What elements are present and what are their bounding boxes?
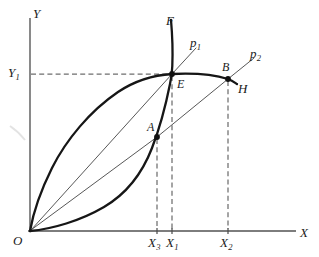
point-b-marker [225, 76, 231, 82]
line-p2-label-base: p [250, 46, 257, 61]
x-tick-label-x3-sub: 3 [156, 242, 160, 252]
x-tick-label-x3-base: X [148, 235, 156, 250]
y-axis-label: Y [33, 7, 40, 20]
ray-p2-OAB [31, 58, 254, 230]
rays-group [31, 48, 254, 230]
line-p1-label-base: p [190, 35, 197, 50]
curve-h-label-base: H [238, 81, 247, 96]
x-tick-label-x2-base: X [220, 235, 228, 250]
curve-f-label: F [166, 14, 174, 27]
x-tick-label-x1-base: X [166, 235, 174, 250]
curve-h-label: H [238, 82, 247, 95]
point-a-marker [154, 134, 160, 140]
x-tick-label-x1-sub: 1 [174, 242, 178, 252]
curve-f-label-base: F [166, 13, 174, 28]
scan-artifact [10, 126, 25, 140]
geometric-diagram: Y X O Y1 X3 X1 X2 F H p1 p2 A E B [0, 0, 319, 257]
x-tick-label-x2-sub: 2 [228, 242, 232, 252]
x-tick-label-x1: X1 [166, 236, 178, 249]
diagram-canvas [0, 0, 319, 257]
point-e-marker [169, 71, 175, 77]
x-tick-label-x2: X2 [220, 236, 232, 249]
y-tick-label-y1: Y1 [8, 66, 19, 79]
point-a-label: A [147, 121, 154, 133]
point-e-label: E [177, 78, 184, 90]
line-p2-label: p2 [250, 47, 261, 60]
line-p1-label: p1 [190, 36, 201, 49]
x-tick-label-x3: X3 [148, 236, 160, 249]
origin-label: O [13, 234, 22, 247]
line-p2-label-sub: 2 [257, 53, 261, 63]
y-tick-label-y1-base: Y [8, 65, 15, 80]
y-tick-label-y1-sub: 1 [16, 72, 20, 82]
x-axis-label: X [300, 226, 308, 239]
point-b-label: B [222, 61, 229, 73]
curves-group [30, 20, 237, 231]
line-p1-label-sub: 1 [197, 42, 201, 52]
